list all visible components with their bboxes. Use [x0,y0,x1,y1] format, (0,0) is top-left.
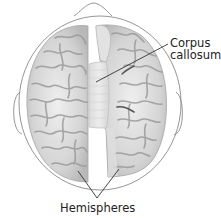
left-ear-outline [14,92,22,134]
hemispheres-label: Hemispheres [60,202,135,214]
brain-illustration [0,0,221,218]
brain-diagram: Corpus callosum Hemispheres [0,0,221,218]
corpus-callosum-label: Corpus callosum [170,37,221,61]
corpus-callosum-label-line2: callosum [170,49,221,61]
nose-outline [74,3,112,16]
